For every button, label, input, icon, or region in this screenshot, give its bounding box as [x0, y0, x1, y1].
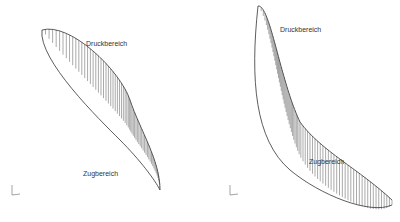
right-stress-hatching: [258, 6, 392, 209]
right-axis-icon: [230, 185, 238, 195]
right-tension-label: Zugbereich: [309, 158, 344, 165]
left-compression-label: Druckbereich: [86, 40, 127, 47]
right-compression-label: Druckbereich: [280, 26, 321, 33]
right-base-curve: [255, 6, 392, 208]
left-stress-curve: [42, 29, 160, 190]
left-base-curve: [42, 30, 160, 190]
right-stress-curve: [258, 6, 392, 200]
left-stress-hatching: [42, 29, 160, 190]
left-tension-label: Zugbereich: [83, 170, 118, 177]
stress-diagrams: [0, 0, 400, 222]
left-axis-icon: [12, 185, 20, 195]
